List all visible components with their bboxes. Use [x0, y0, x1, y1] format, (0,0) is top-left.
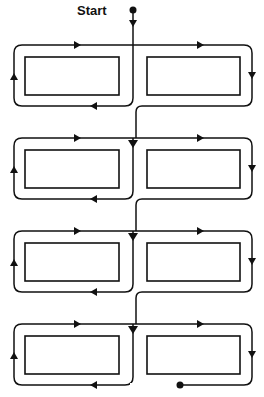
- arrow-up-icon: [10, 352, 18, 359]
- arrow-down-icon: [128, 326, 138, 334]
- left-box: [25, 57, 119, 95]
- arrow-up-icon: [10, 166, 18, 173]
- arrow-down-icon: [128, 233, 138, 241]
- arrow-right-icon: [74, 134, 81, 142]
- arrow-down-icon: [129, 20, 137, 27]
- arrow-down-icon: [248, 165, 256, 172]
- arrow-right-icon: [74, 41, 81, 49]
- arrow-right-icon: [197, 41, 204, 49]
- left-box: [25, 243, 119, 281]
- arrow-left-icon: [90, 195, 97, 203]
- arrow-right-icon: [74, 320, 81, 328]
- arrow-down-icon: [248, 258, 256, 265]
- arrow-right-icon: [197, 320, 204, 328]
- right-box: [147, 150, 240, 188]
- arrow-up-icon: [10, 73, 18, 80]
- end-dot: [177, 382, 184, 389]
- right-box: [147, 336, 240, 374]
- rows: [10, 41, 256, 393]
- right-box: [147, 243, 240, 281]
- arrow-right-icon: [197, 227, 204, 235]
- arrow-right-icon: [74, 227, 81, 235]
- right-box: [147, 57, 240, 95]
- left-box: [25, 336, 119, 374]
- arrow-left-icon: [90, 102, 97, 110]
- arrow-down-icon: [248, 351, 256, 358]
- left-box: [25, 150, 119, 188]
- arrow-down-icon: [248, 72, 256, 79]
- arrow-down-icon: [128, 140, 138, 148]
- arrow-left-icon: [90, 381, 97, 389]
- arrow-up-icon: [10, 259, 18, 266]
- start-label: Start: [77, 3, 107, 18]
- serpentine-path-diagram: Start: [0, 0, 264, 397]
- arrow-left-icon: [90, 288, 97, 296]
- arrow-right-icon: [197, 134, 204, 142]
